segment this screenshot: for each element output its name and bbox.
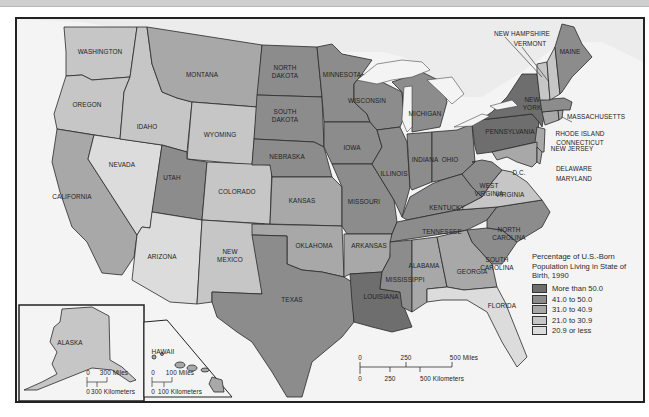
label-kentucky: KENTUCKY (429, 204, 465, 211)
us-map: WASHINGTONOREGONCALIFORNIANEVADAIDAHOMON… (17, 19, 643, 401)
legend-label: 31.0 to 40.9 (552, 305, 592, 315)
label-wisconsin: WISCONSIN (348, 97, 386, 104)
label-kansas: KANSAS (289, 197, 316, 204)
scale-miles-0: 0 (358, 354, 362, 361)
hawaii-scale-km-0: 0 (151, 388, 155, 395)
label-washington: WASHINGTON (78, 48, 123, 55)
top-border-bar (0, 0, 649, 7)
label-missouri: MISSOURI (348, 198, 381, 205)
state-iowa[interactable] (324, 122, 382, 164)
label-nevada: NEVADA (109, 161, 136, 168)
label-texas: TEXAS (281, 296, 302, 303)
label-oregon: OREGON (72, 101, 101, 108)
label-mississippi: MISSISSIPPI (385, 276, 424, 283)
label-idaho: IDAHO (137, 123, 158, 130)
label-south-carolina: SOUTHCAROLINA (480, 256, 514, 271)
label-hawaii: HAWAII (152, 348, 175, 355)
label-new-hampshire: NEW HAMPSHIRE (494, 30, 550, 37)
label-michigan: MICHIGAN (409, 110, 442, 117)
label-delaware: DELAWARE (556, 165, 592, 172)
legend-label: More than 50.0 (552, 284, 603, 294)
label-minnesota: MINNESOTA (323, 71, 362, 78)
legend-label: 21.0 to 30.9 (552, 316, 592, 326)
legend-item: 21.0 to 30.9 (532, 315, 642, 326)
main-scale-bar: 0 250 500 Miles 0 250 500 Kilometers (358, 354, 478, 382)
label-louisiana: LOUISIANA (364, 293, 400, 300)
label-ohio: OHIO (442, 156, 459, 163)
state-connecticut[interactable] (542, 110, 559, 125)
label-vermont: VERMONT (514, 40, 547, 47)
label-tennessee: TENNESSEE (422, 228, 462, 235)
label-utah: UTAH (163, 174, 181, 181)
label-illinois: ILLINOIS (380, 170, 407, 177)
label-oklahoma: OKLAHOMA (295, 242, 333, 249)
label-alabama: ALABAMA (409, 262, 441, 269)
legend-swatch (532, 305, 547, 314)
label-new-jersey: NEW JERSEY (551, 145, 594, 152)
alaska-scale-miles-300: 300 Miles (100, 369, 128, 376)
label-florida: FLORIDA (488, 302, 517, 309)
state-north-dakota[interactable] (257, 45, 322, 97)
legend-title: Percentage of U.S.-Born Population Livin… (532, 252, 642, 281)
label-arizona: ARIZONA (147, 253, 177, 260)
legend-item: 20.9 or less (532, 326, 642, 337)
legend-label: 41.0 to 50.0 (552, 295, 592, 305)
label-massachusetts: MASSACHUSETTS (567, 113, 625, 120)
scale-km-500: 500 Kilometers (420, 375, 464, 382)
label-maryland: MARYLAND (556, 175, 592, 182)
legend-item: 31.0 to 40.9 (532, 305, 642, 316)
legend-swatch (532, 284, 547, 293)
label-dc: D.C. (512, 169, 525, 176)
legend-label: 20.9 or less (552, 326, 591, 336)
alaska-scale-miles-0: 0 (86, 369, 90, 376)
label-wyoming: WYOMING (204, 131, 237, 138)
legend-item: More than 50.0 (532, 284, 642, 295)
alaska-scale-km-300: 300 Kilometers (91, 388, 135, 395)
label-california: CALIFORNIA (52, 193, 92, 200)
label-indiana: INDIANA (412, 156, 439, 163)
label-rhode-island: RHODE ISLAND (555, 130, 604, 137)
label-connecticut: CONNECTICUT (556, 139, 604, 146)
legend-swatch (532, 295, 547, 304)
hawaii-scale-km-100: 100 Kilometers (158, 388, 202, 395)
legend-item: 41.0 to 50.0 (532, 294, 642, 305)
label-montana: MONTANA (186, 71, 219, 78)
map-frame: WASHINGTONOREGONCALIFORNIANEVADAIDAHOMON… (15, 17, 645, 403)
hawaii-scale-miles-100: 100 Miles (166, 369, 194, 376)
label-iowa: IOWA (343, 144, 361, 151)
lake-michigan (402, 86, 412, 132)
label-new-york: NEWYORK (523, 96, 542, 111)
label-arkansas: ARKANSAS (351, 242, 387, 249)
label-alaska: ALASKA (57, 339, 83, 346)
label-colorado: COLORADO (218, 188, 255, 195)
legend-swatch (532, 326, 547, 335)
scale-km-250: 250 (385, 375, 396, 382)
label-pennsylvania: PENNSYLVANIA (485, 128, 535, 135)
label-maine: MAINE (560, 48, 581, 55)
scale-km-0: 0 (358, 375, 362, 382)
label-nebraska: NEBRASKA (269, 153, 305, 160)
legend-swatch (532, 316, 547, 325)
legend: Percentage of U.S.-Born Population Livin… (532, 252, 642, 336)
scale-miles-500: 500 Miles (450, 354, 478, 361)
label-north-dakota: NORTHDAKOTA (272, 64, 299, 79)
scale-miles-250: 250 (401, 354, 412, 361)
alaska-scale-km-0: 0 (86, 388, 90, 395)
state-rhode-island[interactable] (558, 110, 563, 120)
label-south-dakota: SOUTHDAKOTA (272, 108, 299, 123)
hawaii-scale-miles-0: 0 (151, 369, 155, 376)
